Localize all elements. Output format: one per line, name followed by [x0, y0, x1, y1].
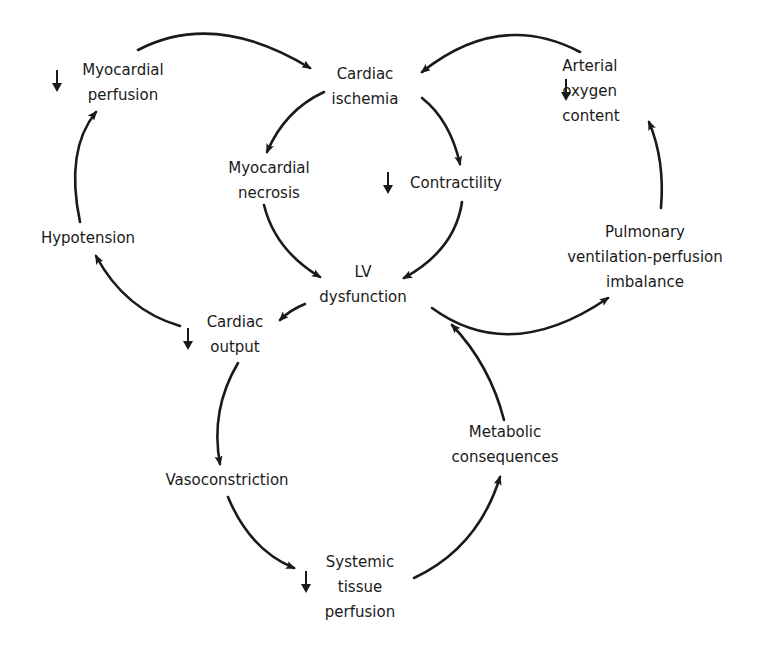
edge-contractility-to-lv — [404, 202, 462, 278]
edge-systemic-to-metabolic — [414, 477, 500, 578]
node-contractility: Contractility — [410, 171, 502, 196]
decrease-arrow-icon — [383, 172, 393, 194]
node-metabolic-consequences: Metabolic consequences — [451, 420, 558, 470]
edge-ischemia-to-contractility — [422, 98, 460, 164]
node-myocardial-perfusion: Myocardial perfusion — [82, 58, 163, 108]
edge-pulmonary-to-oxygen — [649, 122, 662, 208]
node-vasoconstriction: Vasoconstriction — [165, 468, 288, 493]
ischemia-cycle-diagram: Myocardial perfusion Cardiac ischemia Ar… — [0, 0, 762, 645]
edge-lv-to-output — [280, 304, 305, 320]
edge-output-to-hypotension — [96, 256, 180, 326]
node-cardiac-ischemia: Cardiac ischemia — [332, 62, 399, 112]
edge-oxygen-to-ischemia — [422, 35, 580, 72]
edge-output-to-vasoconstriction — [217, 363, 238, 464]
edge-ischemia-to-necrosis — [267, 92, 324, 152]
decrease-arrow-icon — [52, 70, 62, 92]
node-myocardial-necrosis: Myocardial necrosis — [228, 156, 309, 206]
edge-hypotension-to-perfusion — [75, 112, 96, 222]
node-cardiac-output: Cardiac output — [207, 310, 264, 360]
node-systemic-tissue-perfusion: Systemic tissue perfusion — [325, 550, 395, 625]
edge-vasoconstriction-to-systemic — [228, 497, 294, 568]
edge-necrosis-to-lv — [264, 205, 320, 277]
decrease-arrow-icon — [183, 328, 193, 350]
decrease-arrow-icon — [561, 79, 571, 101]
node-pulmonary-vp-imbalance: Pulmonary ventilation-perfusion imbalanc… — [567, 220, 723, 295]
edge-metabolic-to-lv — [452, 325, 504, 420]
node-hypotension: Hypotension — [41, 226, 135, 251]
edge-lv-to-pulmonary — [432, 298, 608, 334]
node-lv-dysfunction: LV dysfunction — [319, 260, 407, 310]
decrease-arrow-icon — [301, 571, 311, 593]
edge-perfusion-to-ischemia — [138, 34, 310, 68]
